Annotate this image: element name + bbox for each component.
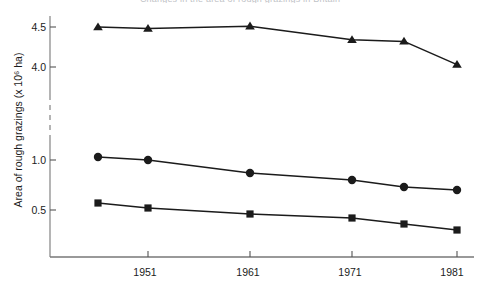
data-point-square xyxy=(348,214,355,221)
chart-figure: Changes in the area of rough grazings in… xyxy=(0,0,480,290)
data-point-circle xyxy=(453,186,461,194)
data-point-triangle xyxy=(93,22,103,30)
data-point-circle xyxy=(94,153,102,161)
data-point-square xyxy=(246,210,253,217)
data-point-circle xyxy=(348,176,356,184)
data-point-square xyxy=(453,226,460,233)
data-point-circle xyxy=(400,183,408,191)
series-line xyxy=(98,26,457,64)
data-point-circle xyxy=(144,156,152,164)
series-group xyxy=(93,22,462,234)
axes-group xyxy=(50,16,474,257)
data-point-square xyxy=(94,199,101,206)
series-triangle xyxy=(93,22,462,68)
plot-area xyxy=(0,0,480,290)
data-point-square xyxy=(144,204,151,211)
series-circle xyxy=(94,153,461,194)
data-point-square xyxy=(400,220,407,227)
series-square xyxy=(94,199,460,233)
data-point-triangle xyxy=(245,22,255,30)
data-point-circle xyxy=(246,169,254,177)
